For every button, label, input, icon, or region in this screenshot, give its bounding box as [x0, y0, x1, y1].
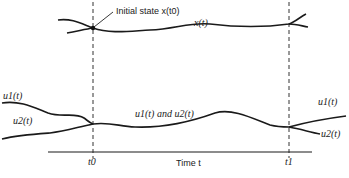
u2-left-curve [2, 124, 93, 139]
control-trajectory-diagram: Initial state x(t0) x(t) u1(t) u2(t) u1(… [0, 0, 349, 178]
x-initial-branch-curve [67, 28, 93, 33]
u2-right-curve [289, 127, 320, 134]
u2-left-label: u2(t) [13, 115, 33, 127]
time-axis-label: Time t [176, 158, 201, 168]
x-trajectory-curve [58, 14, 306, 32]
u1-u2-shared-label: u1(t) and u2(t) [135, 108, 195, 120]
t1-tick-label: t1 [285, 156, 293, 167]
x-final-branch-curve [289, 24, 308, 27]
u1-right-label: u1(t) [318, 96, 338, 108]
t0-tick-label: t0 [88, 156, 96, 167]
u1-left-label: u1(t) [3, 90, 23, 102]
annotation-leader-line [94, 12, 113, 27]
u2-right-label: u2(t) [321, 128, 341, 140]
x-trajectory-label: x(t) [193, 17, 209, 29]
u1-right-curve [289, 116, 346, 127]
initial-state-label: Initial state x(t0) [116, 6, 180, 16]
